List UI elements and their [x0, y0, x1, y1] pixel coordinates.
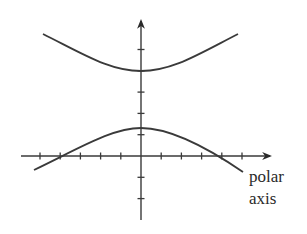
polar-graph: polar axis	[0, 0, 307, 234]
polar-axis-label-line2: axis	[249, 189, 276, 208]
polar-axis-label-line1: polar	[249, 167, 284, 186]
